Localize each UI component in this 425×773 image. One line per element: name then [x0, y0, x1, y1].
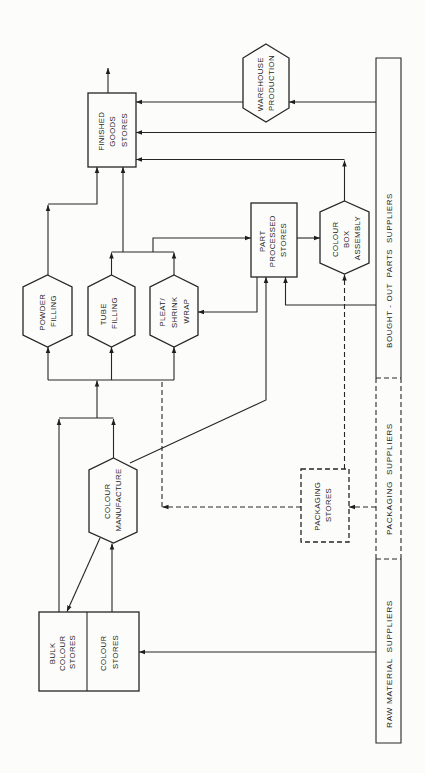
material-flow-diagram: FINISHED GOODS STORES WAREHOUSE PRODUCTI… [0, 0, 425, 773]
finished-goods-stores-label: FINISHED GOODS STORES [97, 109, 129, 151]
part-processed-stores-node: PART PROCESSED STORES [251, 203, 297, 277]
bought-out-to-part-processed-arrow [286, 277, 377, 305]
tube-pleat-to-part-processed-arrow [153, 238, 251, 252]
colour-box-assembly-node: COLOUR BOX ASSEMBLY [320, 201, 369, 274]
packaging-suppliers-label: PACKAGING SUPPLIERS [385, 423, 394, 535]
powder-to-finished-goods-arrow [48, 167, 97, 204]
colour-stores-block: BULK COLOUR STORES COLOUR STORES [39, 612, 139, 691]
powder-filling-node: POWDER FILLING [23, 275, 72, 347]
part-processed-to-pleat-arrow [198, 277, 257, 312]
warehouse-production-node: WAREHOUSE PRODUCTION [243, 44, 289, 122]
raw-material-suppliers-label: RAW MATERIAL SUPPLIERS [385, 600, 394, 728]
bought-out-parts-suppliers-label: BOUGHT - OUT PARTS SUPPLIERS [385, 193, 394, 348]
packaging-stores-node: PACKAGING STORES [301, 469, 349, 542]
colour-manufacture-to-bulk-arrow [67, 538, 100, 612]
pleat-shrink-wrap-label: PLEAT/ SHRINK WRAP [158, 294, 191, 328]
pleat-shrink-wrap-node: PLEAT/ SHRINK WRAP [150, 275, 198, 347]
colour-manufacture-node: COLOUR MANUFACTURE [89, 458, 137, 543]
suppliers-bar: BOUGHT - OUT PARTS SUPPLIERS PACKAGING S… [376, 58, 401, 743]
finished-goods-stores-node: FINISHED GOODS STORES [88, 93, 136, 167]
tube-filling-node: TUBE FILLING [88, 275, 135, 347]
